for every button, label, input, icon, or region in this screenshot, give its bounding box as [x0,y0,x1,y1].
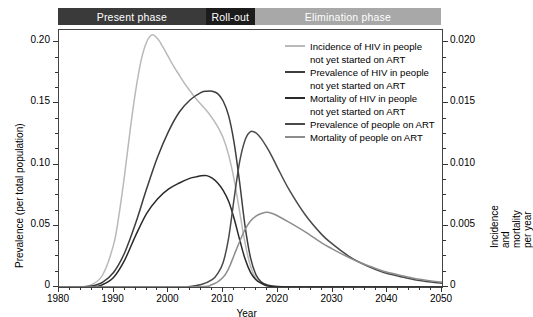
legend-label-continuation: not yet started on ART [310,105,445,118]
legend-label-continuation: not yet started on ART [310,79,445,92]
y2-tick-label: 0.015 [450,95,475,106]
legend-label-continuation: not yet started on ART [310,53,445,66]
x-tick-minor [299,287,300,290]
legend-swatch [285,97,305,99]
x-tick-minor [255,287,256,290]
x-tick-major [222,287,223,292]
y2-tick-label: 0.020 [450,34,475,45]
y-tick-minor [55,57,58,58]
x-tick-minor [200,287,201,290]
x-tick-minor [124,287,125,290]
y-tick-label: 0 [0,279,50,290]
y2-tick-minor [443,179,446,180]
legend-item-4: Mortality of people on ART [285,131,445,144]
x-tick-minor [321,287,322,290]
x-tick-minor [288,287,289,290]
x-tick-minor [343,287,344,290]
x-tick-minor [233,287,234,290]
x-tick-minor [266,287,267,290]
y-tick-label: 0.10 [0,157,50,168]
y2-tick-minor [443,194,446,195]
legend-label: Mortality of people on ART [310,131,423,144]
x-tick-minor [211,287,212,290]
legend: Incidence of HIV in peoplenot yet starte… [285,40,445,144]
x-tick-minor [156,287,157,290]
y-tick-minor [55,240,58,241]
y-tick-label: 0.05 [0,218,50,229]
y2-tick-label: 0.010 [450,157,475,168]
legend-label: Incidence of HIV in people [310,40,422,53]
x-tick-minor [80,287,81,290]
y-tick-major [53,225,58,226]
y-tick-major [53,286,58,287]
y-tick-label: 0.15 [0,95,50,106]
series-line-4 [59,212,442,287]
y-tick-minor [55,133,58,134]
legend-label: Mortality of HIV in people [310,92,417,105]
y-tick-minor [55,255,58,256]
y2-axis-label: Incidence and mortality per year [489,205,533,248]
phase-banner-segment-2: Elimination phase [255,8,441,25]
x-tick-minor [310,287,311,290]
legend-label: Prevalence of HIV in people [310,66,429,79]
x-axis-label: Year [237,308,257,317]
x-tick-minor [364,287,365,290]
legend-swatch [285,123,305,125]
legend-item-0: Incidence of HIV in people [285,40,445,53]
phase-banner-label: Elimination phase [305,11,391,23]
phase-banner-label: Roll-out [211,11,249,23]
y-tick-minor [55,72,58,73]
x-tick-minor [135,287,136,290]
phase-banner-label: Present phase [97,11,167,23]
y2-tick-minor [443,148,446,149]
x-tick-minor [397,287,398,290]
x-tick-label: 2040 [375,293,397,304]
legend-swatch [285,45,305,47]
x-tick-minor [102,287,103,290]
x-tick-minor [244,287,245,290]
y-tick-label: 0.20 [0,34,50,45]
x-tick-major [441,287,442,292]
phase-banner-segment-1: Roll-out [206,8,255,25]
y-tick-minor [55,210,58,211]
legend-item-1: Prevalence of HIV in people [285,66,445,79]
x-tick-minor [146,287,147,290]
y-tick-minor [55,118,58,119]
y-tick-major [53,41,58,42]
x-tick-minor [419,287,420,290]
y-tick-minor [55,271,58,272]
y2-tick-major [443,286,448,287]
y-axis-label: Prevalence (per total population) [14,123,25,268]
x-tick-major [386,287,387,292]
y-tick-minor [55,87,58,88]
y-tick-minor [55,179,58,180]
y2-tick-major [443,225,448,226]
legend-swatch [285,136,305,138]
y-tick-major [53,102,58,103]
y2-tick-major [443,164,448,165]
x-tick-label: 2030 [320,293,342,304]
x-tick-major [58,287,59,292]
phase-banner-segment-0: Present phase [58,8,206,25]
x-tick-label: 1990 [102,293,124,304]
x-tick-minor [375,287,376,290]
y2-tick-minor [443,255,446,256]
legend-item-2: Mortality of HIV in people [285,92,445,105]
x-tick-minor [353,287,354,290]
legend-item-3: Prevalence of people on ART [285,118,445,131]
x-tick-minor [91,287,92,290]
x-tick-major [332,287,333,292]
x-tick-major [113,287,114,292]
x-tick-minor [69,287,70,290]
x-tick-minor [189,287,190,290]
y2-tick-minor [443,271,446,272]
y2-tick-label: 0.005 [450,218,475,229]
x-tick-label: 2000 [156,293,178,304]
x-tick-major [277,287,278,292]
x-tick-label: 2020 [266,293,288,304]
x-tick-minor [408,287,409,290]
y-tick-minor [55,194,58,195]
x-tick-minor [178,287,179,290]
y2-tick-minor [443,210,446,211]
